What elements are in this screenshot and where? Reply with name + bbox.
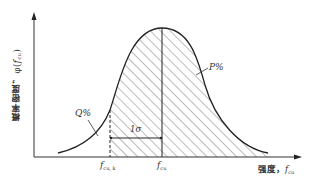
q-percent-leader — [88, 120, 98, 136]
sigma-arrow-right-end-icon — [160, 137, 162, 139]
p-percent-label: P% — [209, 62, 224, 72]
y-axis-label-symbol: φ( — [12, 63, 22, 73]
y-axis-label-var: f — [12, 60, 22, 64]
y-axis-label-sub: cu — [16, 53, 22, 60]
y-axis-arrow-icon — [32, 12, 37, 20]
sigma-arrow-left-end-icon — [110, 137, 112, 139]
y-axis-label-text: 概率密度， — [12, 74, 22, 122]
diagram-canvas — [0, 0, 314, 186]
x-axis-label: 强度，fcu — [258, 162, 294, 175]
x-axis-label-sub: cu — [288, 169, 294, 175]
q-percent-label: Q% — [75, 108, 91, 118]
y-axis-label-close: ) — [12, 49, 22, 53]
sigma-label: 1σ — [130, 124, 141, 134]
x-axis-arrow-icon — [294, 155, 302, 160]
mean-strength-label: fcu — [157, 160, 166, 171]
y-axis-label: 概率密度，φ(fcu) — [11, 40, 27, 130]
probability-density-diagram: 概率密度，φ(fcu) 强度，fcu fcu, k fcu Q% P% 1σ — [0, 0, 314, 186]
characteristic-strength-label: fcu, k — [100, 160, 116, 171]
mean-strength-sub: cu — [160, 165, 166, 171]
x-axis-label-text: 强度， — [258, 164, 285, 174]
characteristic-strength-sub: cu, k — [103, 165, 115, 171]
